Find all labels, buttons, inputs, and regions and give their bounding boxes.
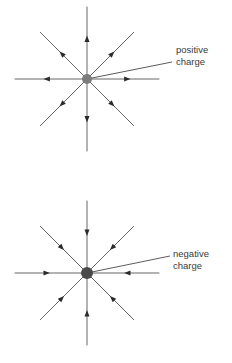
charge-label-line2: charge xyxy=(176,56,205,67)
charge-label-line2: charge xyxy=(173,260,202,271)
charge-dot[interactable] xyxy=(82,74,92,84)
charge-dot[interactable] xyxy=(81,267,93,279)
charge-label-line1: positive xyxy=(176,44,208,55)
charge-label-line1: negative xyxy=(173,248,209,259)
electric-field-diagram: positivecharge negativecharge xyxy=(0,0,232,363)
